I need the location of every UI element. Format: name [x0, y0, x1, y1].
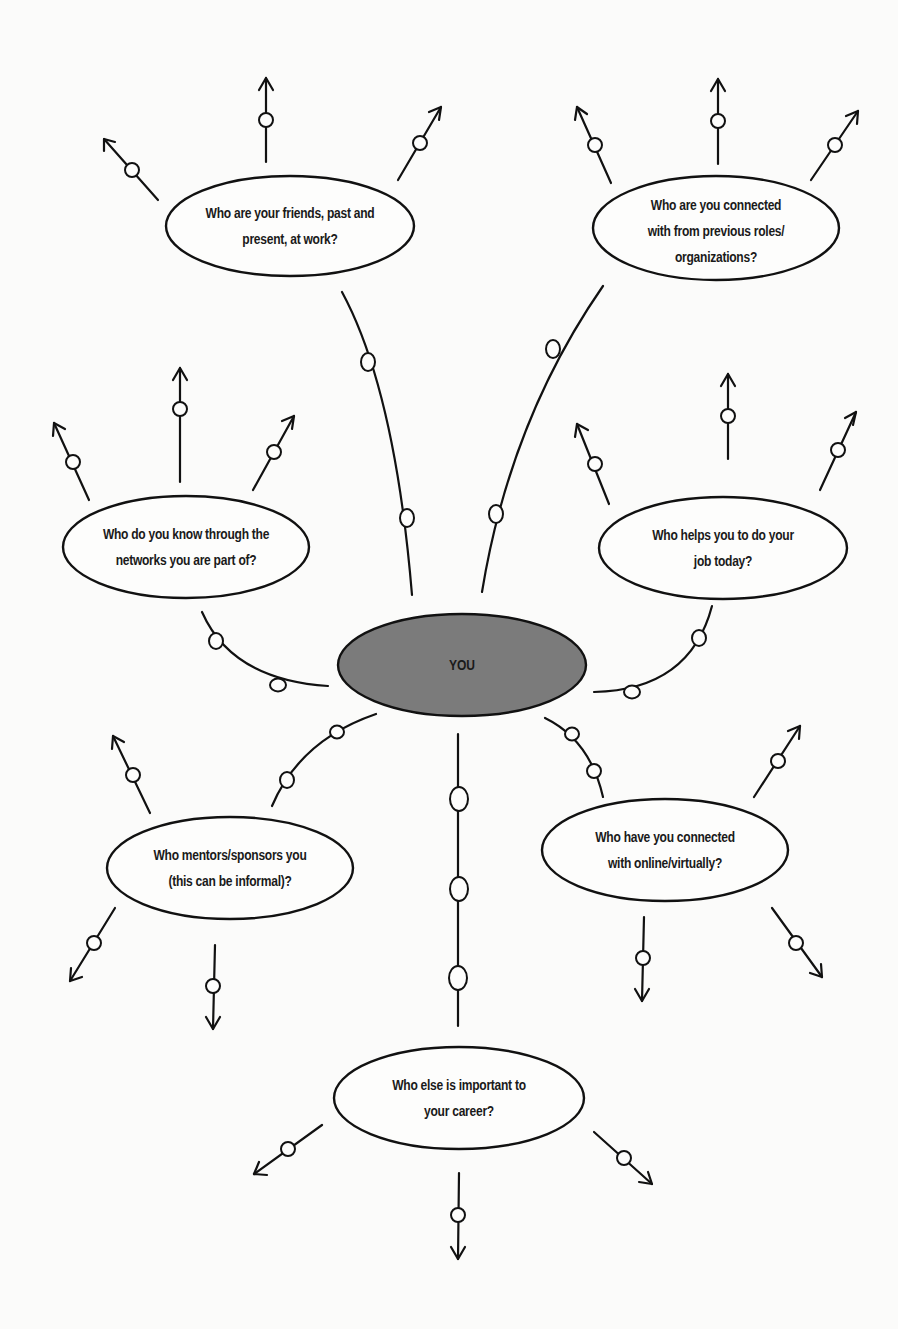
arrow-friends-right	[398, 107, 441, 180]
arrow-helps-job-left	[575, 424, 609, 504]
connector-helps-job	[594, 606, 712, 699]
arrow-friends-left	[104, 139, 158, 200]
connector-friends	[342, 292, 414, 595]
arrow-friends-up	[259, 78, 273, 162]
label-helps-job-line-2: job today?	[616, 548, 831, 574]
arrow-networks-up	[173, 368, 187, 482]
label-networks-line-2: networks you are part of?	[79, 547, 294, 573]
arrow-networks-right	[253, 416, 294, 490]
connector-networks	[202, 612, 328, 692]
connector-else-important	[449, 734, 468, 1026]
center-label-text: YOU	[419, 652, 505, 678]
label-mentors-line-2: (this can be informal)?	[123, 868, 338, 894]
arrow-mentors-up	[112, 736, 150, 813]
label-networks-line-1: Who do you know through the	[79, 521, 294, 547]
label-friends: Who are your friends, past and present, …	[183, 200, 398, 252]
arrow-mentors-down	[206, 945, 220, 1029]
connector-mentors	[272, 714, 376, 806]
label-online: Who have you connected with online/virtu…	[558, 824, 773, 876]
label-friends-line-2: present, at work?	[183, 226, 398, 252]
arrow-helps-job-up	[721, 374, 735, 459]
arrow-else-important-left	[254, 1125, 322, 1175]
label-online-line-1: Who have you connected	[558, 824, 773, 850]
label-previous-roles-line-1: Who are you connected	[609, 192, 824, 218]
arrow-networks-left	[53, 423, 89, 500]
label-else-important-line-1: Who else is important to	[352, 1072, 567, 1098]
arrow-online-down	[635, 917, 650, 1001]
arrow-online-up-right	[754, 726, 800, 797]
label-online-line-2: with online/virtually?	[558, 850, 773, 876]
label-friends-line-1: Who are your friends, past and	[183, 200, 398, 226]
label-mentors: Who mentors/sponsors you (this can be in…	[123, 842, 338, 894]
arrow-else-important-right	[594, 1132, 652, 1184]
arrow-previous-roles-right	[811, 111, 858, 180]
label-previous-roles: Who are you connected with from previous…	[609, 192, 824, 270]
label-networks: Who do you know through the networks you…	[79, 521, 294, 573]
connector-previous-roles	[482, 286, 603, 592]
label-else-important: Who else is important to your career?	[352, 1072, 567, 1124]
arrow-mentors-down-left	[70, 908, 115, 981]
connector-online	[545, 718, 603, 797]
label-helps-job-line-1: Who helps you to do your	[616, 522, 831, 548]
label-else-important-line-2: your career?	[352, 1098, 567, 1124]
label-helps-job: Who helps you to do your job today?	[616, 522, 831, 574]
arrow-previous-roles-left	[575, 107, 611, 183]
center-label: YOU	[419, 652, 505, 678]
arrow-previous-roles-up	[711, 79, 725, 164]
label-mentors-line-1: Who mentors/sponsors you	[123, 842, 338, 868]
arrow-helps-job-right	[820, 412, 856, 490]
label-previous-roles-line-3: organizations?	[609, 244, 824, 270]
arrow-online-down-right	[772, 908, 822, 977]
arrow-else-important-down	[451, 1173, 465, 1259]
label-previous-roles-line-2: with from previous roles/	[609, 218, 824, 244]
